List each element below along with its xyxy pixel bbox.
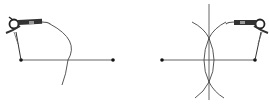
diagram [0, 0, 269, 104]
arc [50, 24, 71, 85]
point-a [160, 58, 164, 62]
step-2-panel [160, 4, 268, 100]
compass-icon [226, 20, 268, 61]
compass-icon [6, 17, 50, 60]
step-1-panel [6, 17, 115, 85]
point-b [111, 58, 115, 62]
